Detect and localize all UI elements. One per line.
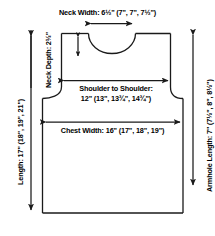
- length-label: Length: 17" (18", 19", 21"): [16, 99, 25, 185]
- garment-outline-svg: [0, 0, 215, 236]
- neckline-curve: [89, 34, 136, 54]
- shoulder-to-shoulder-label-line2: 12" (13", 13¾", 14¾"): [52, 94, 180, 103]
- armhole-length-label: Armhole Length: 7" (7½", 8", 8½"): [205, 79, 214, 192]
- neck-width-label: Neck Width: 6½" (7", 7", 7½"): [0, 8, 215, 17]
- shoulder-to-shoulder-label-line1: Shoulder to Shoulder:: [52, 84, 180, 93]
- schematic-diagram: Neck Width: 6½" (7", 7", 7½") Neck Depth…: [0, 0, 215, 236]
- chest-width-label: Chest Width: 16" (17", 18", 19"): [30, 126, 195, 135]
- neck-depth-label: Neck Depth: 2½": [44, 32, 53, 88]
- garment-body-outline: [43, 34, 184, 214]
